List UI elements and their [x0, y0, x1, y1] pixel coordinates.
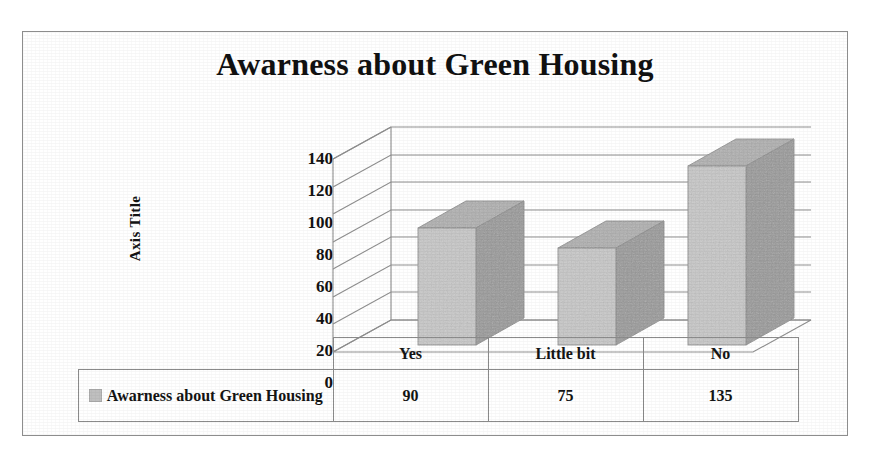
- y-tick-label: 100: [255, 214, 333, 231]
- value-cell-yes: 90: [333, 370, 488, 422]
- value-cell-no: 135: [643, 370, 798, 422]
- data-table: Yes Little bit No Awarness about Green H…: [78, 337, 799, 422]
- legend-label: Awarness about Green Housing: [107, 387, 323, 404]
- legend-swatch-icon: [89, 389, 102, 402]
- category-header-no: No: [643, 338, 798, 370]
- value-cell-little-bit: 75: [488, 370, 643, 422]
- category-header-little-bit: Little bit: [488, 338, 643, 370]
- category-header-yes: Yes: [333, 338, 488, 370]
- bar-no: [688, 139, 794, 345]
- table-row-values: Awarness about Green Housing 90 75 135: [79, 370, 799, 422]
- y-tick-label: 140: [255, 150, 333, 167]
- bar-yes: [418, 201, 524, 345]
- bar-little-bit: [558, 221, 664, 345]
- plot-scaffold: [333, 127, 811, 352]
- table-row-categories: Yes Little bit No: [79, 338, 799, 370]
- chart-title: Awarness about Green Housing: [23, 46, 847, 83]
- legend-cell: Awarness about Green Housing: [79, 370, 334, 422]
- y-axis-title: Axis Title: [127, 169, 144, 289]
- y-tick-label: 80: [255, 246, 333, 263]
- y-tick-label: 60: [255, 278, 333, 295]
- chart-frame: Awarness about Green Housing Axis Title …: [22, 31, 848, 436]
- category-row-spacer: [79, 338, 334, 370]
- y-tick-label: 40: [255, 310, 333, 327]
- y-tick-label: 120: [255, 182, 333, 199]
